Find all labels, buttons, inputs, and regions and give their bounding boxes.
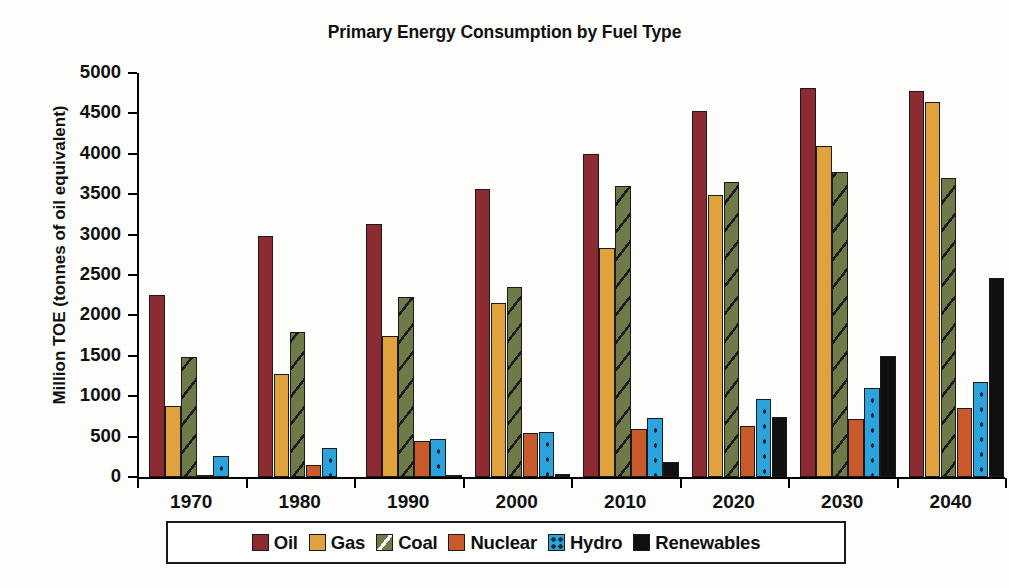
x-tick (897, 478, 899, 488)
bar-nuclear-1970 (197, 475, 213, 477)
bar-coal-1990 (398, 297, 414, 477)
bar-nuclear-2020 (740, 426, 756, 477)
y-tick-label: 3000 (25, 225, 121, 244)
y-tick (128, 355, 137, 357)
bar-nuclear-1990 (414, 441, 430, 477)
y-tick-label: 2000 (25, 305, 121, 324)
y-tick (128, 112, 137, 114)
page-title: Primary Energy Consumption by Fuel Type (0, 22, 1009, 43)
bar-nuclear-2010 (631, 429, 647, 477)
bar-hydro-1980 (322, 448, 338, 477)
legend-label: Oil (274, 532, 298, 554)
bar-hydro-2010 (647, 418, 663, 477)
bar-hydro-2040 (973, 382, 989, 477)
bar-gas-2020 (708, 195, 724, 477)
bar-oil-2000 (475, 189, 491, 477)
bar-group (897, 73, 1006, 477)
x-tick-label-1990: 1990 (348, 491, 468, 513)
bar-oil-2030 (800, 88, 816, 477)
y-tick (128, 274, 137, 276)
x-tick (680, 478, 682, 488)
bar-oil-2040 (909, 91, 925, 477)
y-tick-label: 500 (25, 427, 121, 446)
legend-swatch-oil-icon (252, 534, 269, 551)
x-tick-label-1970: 1970 (131, 491, 251, 513)
bar-group (463, 73, 572, 477)
bar-gas-2000 (491, 303, 507, 477)
y-tick (128, 234, 137, 236)
y-tick (128, 153, 137, 155)
bar-nuclear-2040 (957, 408, 973, 477)
legend-item-renewables[interactable]: Renewables (633, 532, 760, 554)
bar-hydro-2020 (756, 399, 772, 477)
x-tick-label-2010: 2010 (565, 491, 685, 513)
y-tick (128, 193, 137, 195)
x-tick (354, 478, 356, 488)
bar-nuclear-1980 (306, 465, 322, 477)
legend-label: Renewables (655, 532, 760, 554)
y-tick-label: 1500 (25, 346, 121, 365)
x-tick-label-2030: 2030 (782, 491, 902, 513)
legend-swatch-hydro-icon (548, 534, 565, 551)
y-tick-label: 5000 (25, 63, 121, 82)
x-tick-label-2000: 2000 (457, 491, 577, 513)
bar-group (680, 73, 789, 477)
x-tick (246, 478, 248, 488)
bar-coal-1970 (181, 357, 197, 477)
y-tick-label: 4500 (25, 103, 121, 122)
bar-oil-1980 (258, 236, 274, 477)
x-tick (1005, 478, 1007, 488)
x-tick (571, 478, 573, 488)
legend-swatch-renewables-icon (633, 534, 650, 551)
y-tick (128, 476, 137, 478)
bar-coal-2010 (615, 186, 631, 477)
y-tick (128, 436, 137, 438)
legend-item-nuclear[interactable]: Nuclear (448, 532, 536, 554)
legend-item-coal[interactable]: Coal (376, 532, 437, 554)
chart-legend: OilGasCoalNuclearHydroRenewables (166, 521, 846, 564)
bar-coal-1980 (290, 332, 306, 477)
plot-area: 5000450040003500300025002000150010005000… (137, 73, 1005, 477)
y-tick-label: 4000 (25, 144, 121, 163)
bar-nuclear-2000 (523, 433, 539, 477)
legend-item-oil[interactable]: Oil (252, 532, 298, 554)
bar-renewables-2000 (555, 474, 571, 477)
legend-item-gas[interactable]: Gas (309, 532, 365, 554)
legend-swatch-gas-icon (309, 534, 326, 551)
bar-gas-2030 (816, 146, 832, 477)
bar-gas-1980 (274, 374, 290, 477)
bar-oil-1990 (366, 224, 382, 477)
y-tick (128, 395, 137, 397)
bar-group (137, 73, 246, 477)
legend-item-hydro[interactable]: Hydro (548, 532, 622, 554)
bar-hydro-2030 (864, 388, 880, 477)
bar-gas-2040 (925, 102, 941, 477)
bar-coal-2020 (724, 182, 740, 477)
legend-label: Nuclear (470, 532, 536, 554)
y-tick (128, 72, 137, 74)
legend-label: Gas (331, 532, 365, 554)
y-tick-label: 1000 (25, 386, 121, 405)
x-tick-label-2040: 2040 (891, 491, 1009, 513)
legend-swatch-nuclear-icon (448, 534, 465, 551)
bar-hydro-1970 (213, 456, 229, 477)
y-tick-label: 3500 (25, 184, 121, 203)
y-tick-label: 0 (25, 467, 121, 486)
bar-coal-2000 (507, 287, 523, 477)
bar-coal-2040 (941, 178, 957, 477)
x-tick (788, 478, 790, 488)
bar-group (354, 73, 463, 477)
bar-oil-1970 (149, 295, 165, 477)
legend-label: Hydro (570, 532, 622, 554)
y-tick (128, 314, 137, 316)
x-tick-label-1980: 1980 (240, 491, 360, 513)
bar-renewables-2020 (772, 417, 788, 477)
bar-group (788, 73, 897, 477)
bar-oil-2010 (583, 154, 599, 477)
bar-gas-2010 (599, 248, 615, 477)
bar-gas-1990 (382, 336, 398, 477)
x-tick-label-2020: 2020 (674, 491, 794, 513)
bar-renewables-2040 (989, 278, 1005, 477)
bar-oil-2020 (692, 111, 708, 477)
bar-hydro-1990 (430, 439, 446, 477)
